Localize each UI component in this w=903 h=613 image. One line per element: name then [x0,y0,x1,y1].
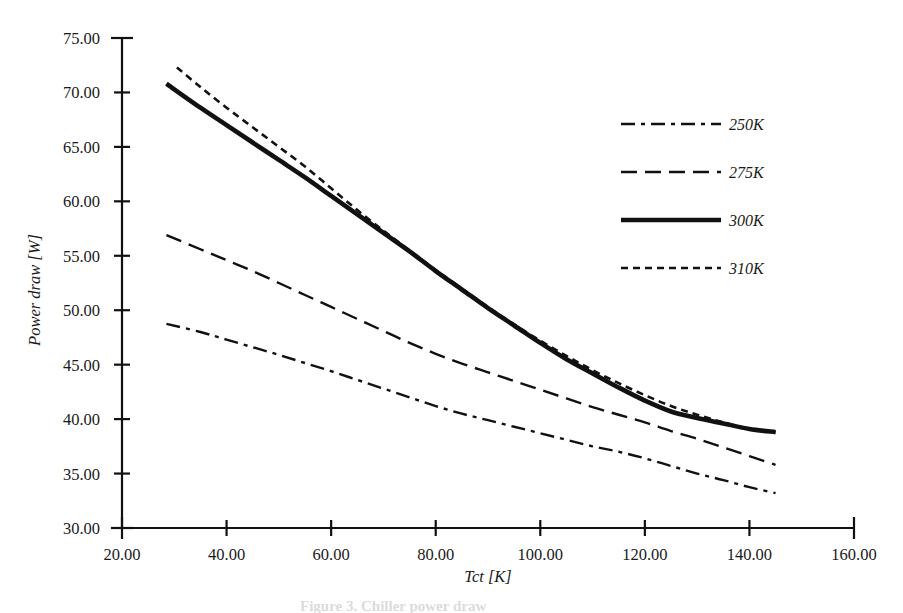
figure-caption: Figure 3. Chiller power draw [300,598,486,613]
series-line-300k [166,84,775,432]
x-tick-label: 100.00 [518,545,563,564]
x-tick-label: 60.00 [313,545,350,564]
y-axis-title: Power draw [W] [25,234,44,347]
y-tick-label: 55.00 [63,247,100,266]
legend: 250K275K300K310K [621,116,765,277]
y-tick-label: 60.00 [63,192,100,211]
series-line-310k [177,67,776,432]
y-tick-label: 70.00 [63,83,100,102]
x-axis-title: Tct [K] [464,567,512,586]
axes-group [122,38,854,528]
legend-label-310k: 310K [728,260,765,277]
data-series-group [166,67,775,493]
x-tick-label: 140.00 [727,545,772,564]
y-tick-label: 50.00 [63,301,100,320]
legend-label-250k: 250K [729,116,765,133]
x-tick-label: 80.00 [417,545,454,564]
y-tick-label: 40.00 [63,410,100,429]
legend-label-275k: 275K [729,164,765,181]
y-tick-label: 65.00 [63,138,100,157]
x-axis-ticks: 20.0040.0060.0080.00100.00120.00140.0016… [103,517,876,564]
y-tick-label: 45.00 [63,356,100,375]
y-tick-label: 75.00 [63,29,100,48]
x-tick-label: 120.00 [622,545,667,564]
legend-label-300k: 300K [728,212,765,229]
y-tick-label: 30.00 [63,519,100,538]
x-tick-label: 40.00 [208,545,245,564]
x-tick-label: 160.00 [831,545,876,564]
chart-canvas: 30.0035.0040.0045.0050.0055.0060.0065.00… [0,0,903,613]
y-tick-label: 35.00 [63,465,100,484]
series-line-250k [166,324,775,493]
x-tick-label: 20.00 [103,545,140,564]
figure-container: 30.0035.0040.0045.0050.0055.0060.0065.00… [0,0,903,613]
